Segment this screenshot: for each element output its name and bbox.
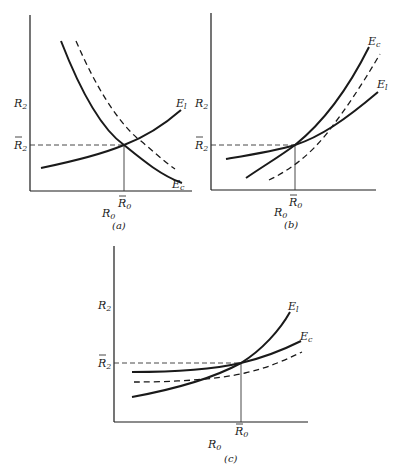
- y-axis-label: R2: [194, 97, 208, 111]
- curve-label-el: El: [175, 97, 187, 111]
- panel-caption: (c): [224, 453, 238, 464]
- curve-ec: [246, 47, 369, 178]
- curve-label-el: El: [287, 300, 299, 314]
- equilibrium-diagram: R2 R2 R0 R0 (a) El Ec R2 R2 R0 R0 (b) Ec…: [0, 0, 402, 474]
- panel-a: R2 R2 R0 R0 (a) El Ec: [13, 15, 192, 231]
- y-tick-r2-bar: R2: [97, 357, 111, 371]
- y-axis-label: R2: [97, 299, 111, 313]
- curve-label-ec: Ec: [299, 330, 313, 344]
- curve-ec: [132, 341, 301, 372]
- curve-el: [41, 110, 181, 168]
- curve-el: [226, 92, 378, 159]
- curve-label-ec: Ec: [171, 178, 185, 192]
- x-tick-r0-bar: R0: [234, 425, 248, 439]
- panel-caption: (a): [112, 220, 126, 231]
- y-tick-r2-bar: R2: [194, 139, 208, 153]
- x-tick-r0-bar: R0: [288, 196, 302, 210]
- y-axis-label: R2: [13, 97, 27, 111]
- panel-caption: (b): [284, 219, 298, 230]
- x-axis-label: R0: [101, 207, 115, 221]
- curve-ec: [61, 41, 182, 183]
- x-tick-r0-bar: R0: [117, 197, 131, 211]
- x-axis-label: R0: [207, 438, 221, 452]
- curve-label-el: El: [376, 78, 388, 92]
- curve-el: [132, 312, 290, 397]
- y-tick-r2-bar: R2: [13, 139, 27, 153]
- curve-label-ec: Ec: [367, 35, 381, 49]
- x-axis-label: R0: [273, 206, 287, 220]
- panel-c: R2 R2 R0 R0 (c) El Ec: [97, 246, 313, 464]
- panel-b: R2 R2 R0 R0 (b) Ec El: [194, 13, 388, 230]
